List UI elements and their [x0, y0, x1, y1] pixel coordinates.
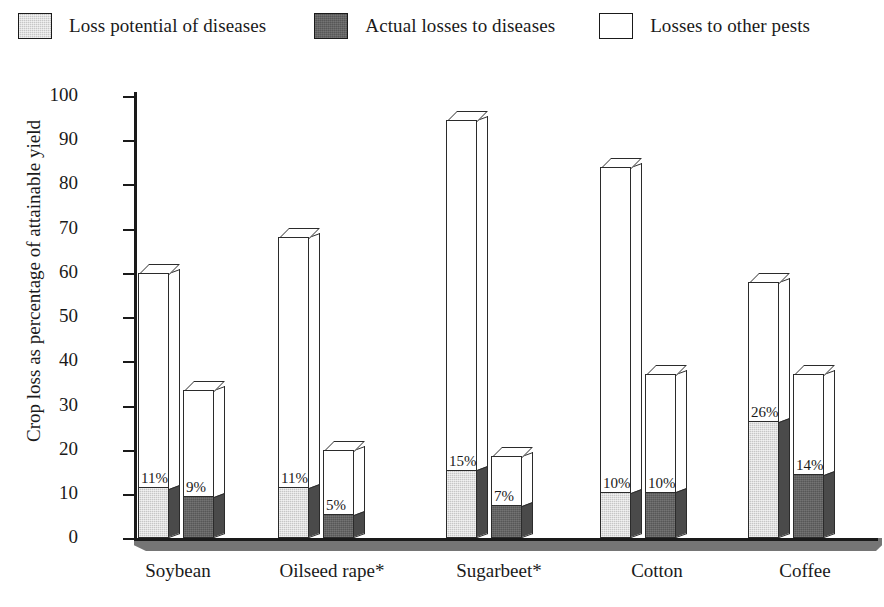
- bar-side-face-fill: [477, 467, 487, 537]
- y-tick-20: [123, 450, 135, 452]
- legend-swatch-light-gray-icon: [18, 13, 52, 39]
- bar-cotton-actual-losses: 10%: [645, 374, 676, 538]
- bar-side-face-fill: [309, 485, 319, 537]
- bar-fill-loss-potential: [139, 487, 168, 537]
- bar-value-label: 5%: [326, 498, 346, 513]
- y-tick-label-70: 70: [34, 218, 78, 237]
- bar-fill-actual-losses: [794, 474, 823, 537]
- bar-side-face: [214, 386, 225, 538]
- y-tick-30: [123, 406, 135, 408]
- bar-side-face-fill: [522, 502, 532, 537]
- bar-cotton-loss-potential: 10%: [600, 167, 631, 538]
- y-tick-10: [123, 494, 135, 496]
- legend-label-actual-losses: Actual losses to diseases: [365, 15, 555, 37]
- bar-value-label: 15%: [449, 454, 477, 469]
- bar-side-face: [354, 446, 365, 538]
- bar-side-face: [779, 278, 790, 538]
- bar-side-face: [477, 116, 488, 538]
- bar-value-label: 11%: [281, 471, 308, 486]
- bar-value-label: 14%: [796, 458, 824, 473]
- bar-oilseedrape-actual-losses: 5%: [323, 450, 354, 538]
- y-tick-label-30: 30: [34, 395, 78, 414]
- y-tick-label-80: 80: [34, 173, 78, 192]
- bar-side-face: [169, 269, 180, 538]
- bar-front-face: [183, 390, 214, 538]
- bar-side-face-fill: [779, 418, 789, 537]
- bar-side-face-fill: [631, 489, 641, 537]
- y-tick-label-60: 60: [34, 262, 78, 281]
- plot-area: Crop loss as percentage of attainable yi…: [0, 52, 884, 607]
- bar-side-face: [522, 452, 533, 538]
- bar-oilseedrape-loss-potential: 11%: [278, 237, 309, 538]
- bar-coffee-loss-potential: 26%: [748, 282, 779, 538]
- bar-fill-loss-potential: [447, 470, 476, 537]
- bar-value-label: 11%: [141, 471, 168, 486]
- bar-front-face: [323, 450, 354, 538]
- bar-side-face-fill: [676, 489, 686, 537]
- y-tick-50: [123, 317, 135, 319]
- x-label-soybean: Soybean: [118, 560, 238, 582]
- x-label-oilseed-rape: Oilseed rape*: [252, 560, 412, 582]
- y-tick-label-0: 0: [34, 527, 78, 546]
- bar-side-face: [631, 163, 642, 538]
- y-tick-80: [123, 184, 135, 186]
- bar-front-face: [446, 120, 477, 538]
- legend-item-actual-losses: Actual losses to diseases: [314, 13, 555, 39]
- bar-side-face-fill: [214, 494, 224, 537]
- legend-item-loss-potential: Loss potential of diseases: [18, 13, 266, 39]
- legend-swatch-dark-gray-icon: [314, 13, 348, 39]
- bar-sugarbeet-loss-potential: 15%: [446, 120, 477, 538]
- bar-side-face: [309, 233, 320, 538]
- bar-value-label: 10%: [603, 476, 631, 491]
- bar-fill-loss-potential: [749, 421, 778, 537]
- y-tick-40: [123, 361, 135, 363]
- bar-sugarbeet-actual-losses: 7%: [491, 456, 522, 538]
- bar-fill-loss-potential: [279, 487, 308, 537]
- x-label-coffee: Coffee: [740, 560, 870, 582]
- bar-value-label: 9%: [186, 480, 206, 495]
- x-axis-line: [134, 538, 878, 541]
- x-label-cotton: Cotton: [592, 560, 722, 582]
- bar-fill-actual-losses: [646, 492, 675, 537]
- bar-value-label: 10%: [648, 476, 676, 491]
- bar-soybean-actual-losses: 9%: [183, 390, 214, 538]
- y-tick-0: [123, 538, 135, 540]
- bar-side-face-fill: [824, 471, 834, 537]
- bar-fill-actual-losses: [184, 496, 213, 537]
- legend-label-other-pests: Losses to other pests: [650, 15, 810, 37]
- y-tick-90: [123, 140, 135, 142]
- y-tick-label-10: 10: [34, 483, 78, 502]
- legend-item-other-pests: Losses to other pests: [599, 13, 810, 39]
- chart-legend: Loss potential of diseases Actual losses…: [0, 0, 884, 52]
- y-tick-label-40: 40: [34, 350, 78, 369]
- y-tick-label-50: 50: [34, 306, 78, 325]
- bar-soybean-loss-potential: 11%: [138, 273, 169, 538]
- y-tick-label-20: 20: [34, 439, 78, 458]
- y-axis-line: [134, 92, 137, 538]
- y-tick-60: [123, 273, 135, 275]
- bar-fill-actual-losses: [492, 505, 521, 537]
- bar-value-label: 26%: [751, 405, 779, 420]
- bar-side-face-fill: [169, 485, 179, 537]
- legend-swatch-white-icon: [599, 13, 633, 39]
- legend-label-loss-potential: Loss potential of diseases: [69, 15, 266, 37]
- bar-fill-actual-losses: [324, 514, 353, 537]
- y-tick-label-90: 90: [34, 129, 78, 148]
- bar-side-face: [676, 370, 687, 538]
- crop-loss-bar-chart-figure: Loss potential of diseases Actual losses…: [0, 0, 884, 607]
- y-tick-100: [123, 96, 135, 98]
- bar-side-face: [824, 370, 835, 538]
- bar-side-face-fill: [354, 511, 364, 537]
- bar-fill-loss-potential: [601, 492, 630, 537]
- y-tick-label-100: 100: [34, 85, 78, 104]
- bar-front-face: [645, 374, 676, 538]
- bar-front-face: [278, 237, 309, 538]
- y-tick-70: [123, 229, 135, 231]
- bar-coffee-actual-losses: 14%: [793, 374, 824, 538]
- bar-value-label: 7%: [494, 489, 514, 504]
- x-label-sugarbeet: Sugarbeet*: [424, 560, 574, 582]
- bar-front-face: [138, 273, 169, 538]
